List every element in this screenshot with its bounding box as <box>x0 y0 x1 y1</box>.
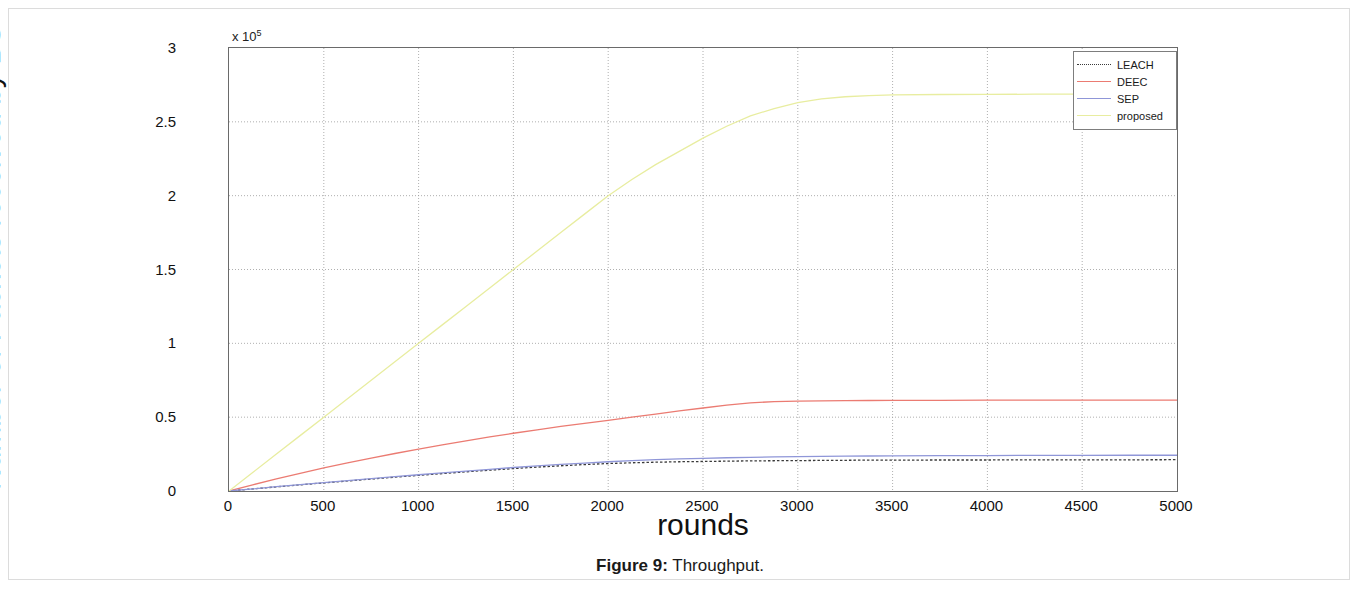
chart-legend: LEACHDEECSEPproposed <box>1073 51 1177 130</box>
gridlines <box>229 48 1177 491</box>
y-tick-label: 1.5 <box>116 260 176 277</box>
throughput-chart-figure: Number of Packets received by BS x 105 0… <box>0 0 1360 590</box>
y-axis-multiplier-base: x 10 <box>232 29 257 44</box>
legend-label: proposed <box>1117 110 1163 122</box>
legend-label: DEEC <box>1117 76 1148 88</box>
figure-caption-text: Throughput. <box>672 556 764 575</box>
x-axis-title: rounds <box>228 508 1178 542</box>
figure-caption: Figure 9: Throughput. <box>0 556 1360 576</box>
legend-swatch-sep-icon <box>1077 93 1111 104</box>
legend-item-proposed[interactable]: proposed <box>1074 107 1176 124</box>
y-tick-label: 1 <box>116 334 176 351</box>
y-tick-label: 0 <box>116 482 176 499</box>
legend-swatch-leach-icon <box>1077 59 1111 70</box>
legend-label: LEACH <box>1117 59 1154 71</box>
y-tick-label: 0.5 <box>116 408 176 425</box>
y-tick-label: 2 <box>116 186 176 203</box>
legend-swatch-deec-icon <box>1077 76 1111 87</box>
legend-label: SEP <box>1117 93 1139 105</box>
legend-item-leach[interactable]: LEACH <box>1074 56 1176 73</box>
legend-item-deec[interactable]: DEEC <box>1074 73 1176 90</box>
y-tick-label: 2.5 <box>116 112 176 129</box>
legend-swatch-proposed-icon <box>1077 110 1111 121</box>
figure-caption-label: Figure 9: <box>596 556 668 575</box>
plot-area <box>228 47 1178 492</box>
y-axis-multiplier: x 105 <box>232 28 262 44</box>
y-axis-multiplier-exponent: 5 <box>257 28 262 38</box>
y-axis-title: Number of Packets received by BS <box>0 40 10 490</box>
plot-canvas <box>229 48 1177 491</box>
y-tick-label: 3 <box>116 39 176 56</box>
legend-item-sep[interactable]: SEP <box>1074 90 1176 107</box>
series-line-sep <box>229 455 1177 491</box>
figure-page: Number of Packets received by BS x 105 0… <box>0 0 1360 590</box>
